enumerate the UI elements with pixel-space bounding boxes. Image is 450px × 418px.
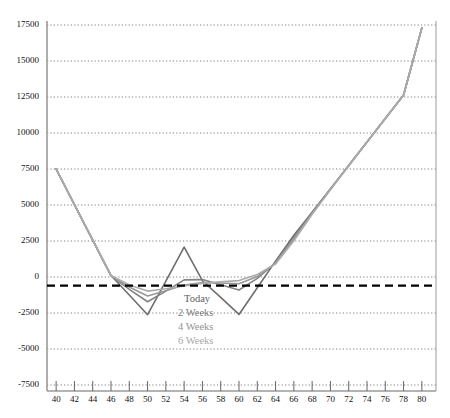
series-line-6-weeks <box>56 28 422 291</box>
y-tick-label: -7500 <box>18 379 39 389</box>
y-tick-label: 12500 <box>17 91 40 101</box>
series-line-4-weeks <box>56 28 422 296</box>
plot-area <box>0 0 450 418</box>
y-tick-label: 17500 <box>17 19 40 29</box>
x-tick-label: 80 <box>410 394 434 404</box>
series-line-2-weeks <box>56 28 422 302</box>
gridlines <box>47 25 436 385</box>
legend-item-today: Today <box>184 293 210 304</box>
line-chart: 175001500012500100007500500025000-2500-5… <box>0 0 450 418</box>
y-tick-label: -2500 <box>18 307 39 317</box>
legend-item-6-weeks: 6 Weeks <box>178 335 213 346</box>
y-tick-label: 2500 <box>21 235 39 245</box>
y-tick-label: 10000 <box>17 127 40 137</box>
y-tick-label: 5000 <box>21 199 39 209</box>
legend-item-4-weeks: 4 Weeks <box>178 321 213 332</box>
series-line-today <box>56 28 422 315</box>
data-series <box>56 28 422 315</box>
y-tick-label: 7500 <box>21 163 39 173</box>
y-tick-label: 0 <box>35 271 40 281</box>
y-tick-label: -5000 <box>18 343 39 353</box>
y-tick-label: 15000 <box>17 55 40 65</box>
legend-item-2-weeks: 2 Weeks <box>178 307 213 318</box>
x-tick-marks <box>56 381 422 391</box>
axes <box>47 21 436 391</box>
